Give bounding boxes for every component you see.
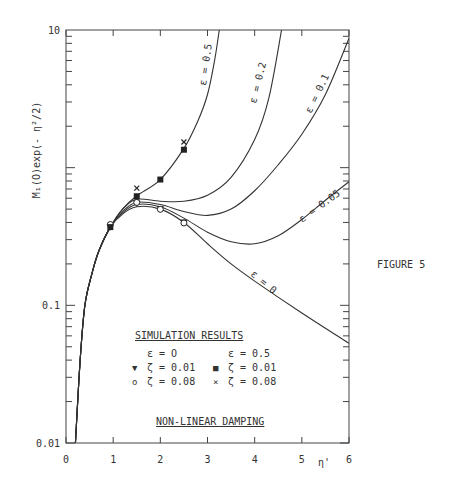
legend-col2-header: ε = 0.5 [228,348,270,359]
marker-circle [134,199,140,205]
x-tick-label: 5 [299,454,305,465]
legend-row2-text2: ζ = 0.08 [228,376,276,387]
x-tick-label: 4 [252,454,258,465]
y-axis-label-text: M₁(O)exp(- η²/2) [31,102,42,198]
curve-label-eps-0.1: ε = 0.1 [303,72,331,115]
y-tick-label: 10 [48,25,60,36]
legend-row2-symbol1: o [132,377,137,387]
x-tick-label: 0 [63,454,69,465]
marker-square [157,177,163,183]
marker-square [181,147,187,153]
legend-row2-text1: ζ = 0.08 [147,376,195,387]
curve-label-eps-0: ε = 0 [249,268,279,296]
curve-0 [75,206,349,443]
curve-label-eps-0.05: ε = 0.05 [297,187,342,224]
y-axis-label: M₁(O)exp(- η²/2) [31,102,42,198]
plot-axes: 0123456100.10.01 [36,25,352,465]
y-tick-label: 0.1 [42,300,60,311]
figure-label: FIGURE 5 [377,259,425,270]
legend-row1-text1: ζ = 0.01 [147,362,195,373]
curve-label-eps-0.2: ε = 0.2 [247,61,268,105]
legend-row1-symbol1: ▼ [132,363,138,373]
legend-row2-symbol2: × [213,377,218,387]
x-tick-label: 1 [110,454,116,465]
plot-frame [66,30,349,443]
legend-row1-text2: ζ = 0.01 [228,362,276,373]
x-tick-label: 2 [157,454,163,465]
marker-circle [157,206,163,212]
x-tick-label: 6 [346,454,352,465]
legend-row1-symbol2: ■ [213,363,219,373]
marker-circle [181,220,187,226]
legend-col1-header: ε = O [147,348,177,359]
legend: SIMULATION RESULTS ε = O ε = 0.5 ▼ ζ = 0… [132,330,276,387]
x-tick-label: 3 [204,454,210,465]
annotation-non-linear-damping: NON-LINEAR DAMPING [156,416,264,427]
chart: 0123456100.10.01 M₁(O)exp(- η²/2) ε = 0.… [0,0,459,494]
y-tick-label: 0.01 [36,438,60,449]
x-axis-label: η' [318,457,330,468]
marker-square [134,193,140,199]
marker-square [107,224,113,230]
legend-title: SIMULATION RESULTS [135,330,243,341]
